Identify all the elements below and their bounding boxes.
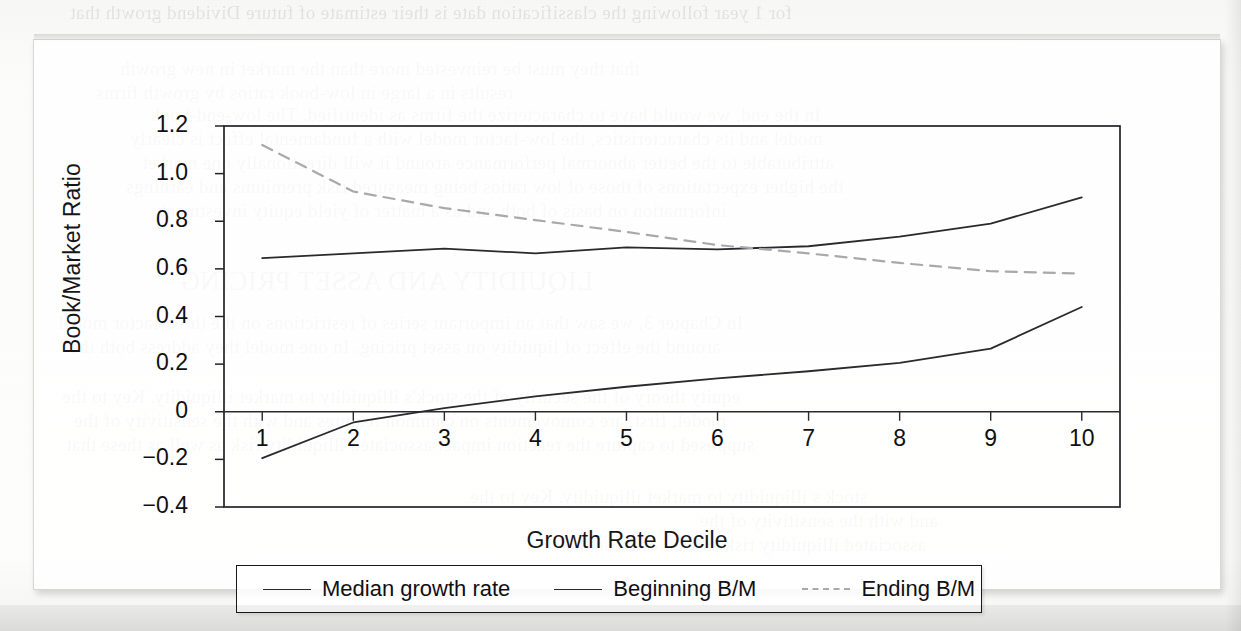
series-line-median-growth-rate xyxy=(262,307,1082,458)
legend-label: Beginning B/M xyxy=(613,576,756,602)
legend-entry-beginning-bm: Beginning B/M xyxy=(554,576,756,602)
y-tick-label: 0.8 xyxy=(130,206,188,233)
x-tick-label: 5 xyxy=(601,425,651,452)
page-right-edge-shadow xyxy=(1225,0,1241,631)
x-axis-title: Growth Rate Decile xyxy=(34,527,1220,554)
y-axis-tick-labels: 1.21.00.80.60.40.20−0.2−0.4 xyxy=(126,40,188,589)
y-tick-label: 1.0 xyxy=(130,159,188,186)
y-tick-label: −0.2 xyxy=(130,444,188,471)
legend-line-swatch-solid xyxy=(554,589,602,590)
legend-entry-ending-bm: Ending B/M xyxy=(802,576,975,602)
chart-svg xyxy=(34,40,1220,589)
figure-card: Book/Market Ratio 1.21.00.80.60.40.20−0.… xyxy=(33,39,1221,590)
y-tick-label: 0.6 xyxy=(130,254,188,281)
y-tick-label: −0.4 xyxy=(130,492,188,519)
legend-label: Median growth rate xyxy=(322,576,510,602)
y-tick-label: 0.2 xyxy=(130,349,188,376)
x-tick-label: 8 xyxy=(875,425,925,452)
y-tick-label: 1.2 xyxy=(130,111,188,138)
x-tick-label: 2 xyxy=(328,425,378,452)
series-line-ending-b-m xyxy=(262,145,1082,274)
x-tick-label: 9 xyxy=(966,425,1016,452)
x-tick-label: 4 xyxy=(510,425,560,452)
y-tick-label: 0 xyxy=(130,397,188,424)
x-tick-label: 3 xyxy=(419,425,469,452)
x-tick-label: 6 xyxy=(693,425,743,452)
y-tick-label: 0.4 xyxy=(130,302,188,329)
legend-line-swatch-dashed xyxy=(802,588,850,590)
y-axis-title: Book/Market Ratio xyxy=(59,129,86,389)
legend-entry-median-growth-rate: Median growth rate xyxy=(263,576,510,602)
legend-label: Ending B/M xyxy=(861,576,975,602)
x-tick-label: 1 xyxy=(237,425,287,452)
x-tick-label: 7 xyxy=(784,425,834,452)
chart-plot-region: Book/Market Ratio 1.21.00.80.60.40.20−0.… xyxy=(34,40,1220,589)
legend-line-swatch-solid xyxy=(263,589,311,590)
page-gutter-shadow xyxy=(0,605,1241,631)
series-line-beginning-b-m xyxy=(262,197,1082,258)
x-tick-label: 10 xyxy=(1057,425,1107,452)
